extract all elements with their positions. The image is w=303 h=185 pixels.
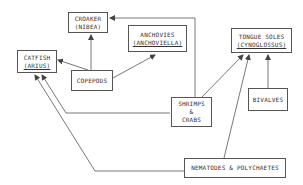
edge-shrimps-tongue-soles bbox=[202, 55, 243, 97]
node-bivalves: BIVALVES bbox=[248, 88, 288, 111]
tongue-soles-label: TONGUE SOLES bbox=[239, 33, 285, 41]
food-web-diagram: CROAKER (NIBEA) ANCHOVIES (ANCHOVIELLA) … bbox=[0, 0, 303, 185]
tongue-soles-genus: (CYNOGLOSSUS) bbox=[237, 41, 287, 49]
ampersand-label: & bbox=[190, 108, 194, 116]
node-copepods: COPEPODS bbox=[71, 70, 113, 91]
edge-copepods-catfish bbox=[58, 60, 88, 70]
nematodes-label: NEMATODES & POLYCHAETES bbox=[191, 164, 279, 172]
node-nematodes-polychaetes: NEMATODES & POLYCHAETES bbox=[184, 158, 286, 178]
anchovies-genus: (ANCHOVIELLA) bbox=[133, 39, 183, 47]
catfish-genus: (ARIUS) bbox=[24, 62, 51, 70]
node-anchovies: ANCHOVIES (ANCHOVIELLA) bbox=[128, 25, 187, 52]
node-croaker: CROAKER (NIBEA) bbox=[68, 12, 108, 33]
edge-copepods-anchovies bbox=[113, 55, 155, 78]
node-tongue-soles: TONGUE SOLES (CYNOGLOSSUS) bbox=[231, 28, 292, 53]
shrimps-label: SHRIMPS bbox=[178, 100, 205, 108]
catfish-label: CATFISH bbox=[24, 54, 51, 62]
crabs-label: CRABS bbox=[182, 116, 201, 124]
node-catfish: CATFISH (ARIUS) bbox=[17, 50, 57, 73]
copepods-label: COPEPODS bbox=[77, 77, 108, 85]
anchovies-label: ANCHOVIES bbox=[140, 31, 174, 39]
croaker-genus: (NIBEA) bbox=[75, 23, 102, 31]
node-shrimps-crabs: SHRIMPS & CRABS bbox=[171, 97, 212, 127]
bivalves-label: BIVALVES bbox=[253, 96, 284, 104]
croaker-label: CROAKER bbox=[75, 15, 102, 23]
